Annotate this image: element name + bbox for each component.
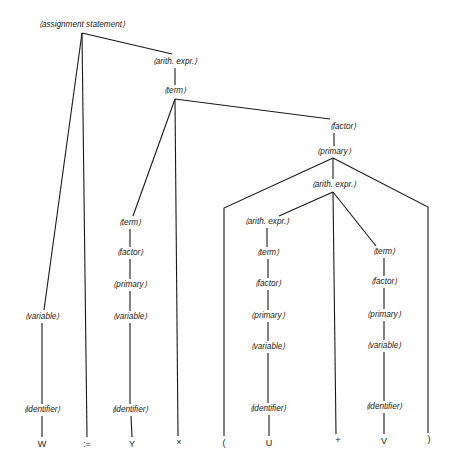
- node-term2: ⟨term⟩: [118, 218, 142, 228]
- node-primary4: ⟨primary⟩: [366, 310, 401, 320]
- terminal-rparen: ): [428, 434, 431, 444]
- node-variable4: ⟨variable⟩: [366, 341, 403, 351]
- terminal-Y: Y: [129, 439, 135, 449]
- node-primary1: ⟨primary⟩: [316, 147, 351, 157]
- node-term1: ⟨term⟩: [163, 86, 187, 96]
- node-term4: ⟨term⟩: [372, 247, 396, 257]
- node-factor4: ⟨factor⟩: [370, 277, 398, 287]
- edge-ident2-to-t_Y: [131, 416, 132, 437]
- node-factor1: ⟨factor⟩: [329, 122, 357, 132]
- terminal-times: ×: [176, 437, 181, 447]
- node-term3: ⟨term⟩: [256, 248, 280, 258]
- edge-term1-to-term2: [133, 99, 175, 216]
- edge-ae2-to-term4: [333, 192, 376, 246]
- terminal-V: V: [381, 436, 387, 446]
- edge-term1-to-factor1: [175, 99, 330, 119]
- edge-ae2-to-t_plus: [333, 192, 336, 434]
- node-ident2: ⟨identifier⟩: [111, 405, 150, 415]
- edge-assign-to-ae1: [82, 33, 172, 54]
- parse-tree-diagram: ⟨assignment statement⟩⟨arith. expr.⟩⟨ter…: [0, 0, 451, 465]
- edge-ae2-to-ae3: [279, 192, 333, 216]
- node-ae1: ⟨arith. expr.⟩: [152, 57, 198, 67]
- node-variable1: ⟨variable⟩: [24, 312, 61, 322]
- node-variable2: ⟨variable⟩: [112, 312, 149, 322]
- terminal-W: W: [38, 439, 47, 449]
- terminal-assign: :=: [83, 439, 91, 449]
- node-factor3: ⟨factor⟩: [254, 279, 282, 289]
- node-factor2: ⟨factor⟩: [116, 248, 144, 258]
- node-primary3: ⟨primary⟩: [250, 311, 285, 321]
- node-assign: ⟨assignment statement⟩: [38, 20, 126, 30]
- terminal-lparen: (: [223, 438, 226, 448]
- node-ident3: ⟨identifier⟩: [249, 404, 288, 414]
- edge-assign-to-t_assign: [82, 33, 87, 437]
- edge-assign-to-variable1: [44, 33, 82, 310]
- node-ident4: ⟨identifier⟩: [365, 402, 404, 412]
- node-ae3: ⟨arith. expr.⟩: [244, 217, 290, 227]
- terminal-U: U: [266, 438, 273, 448]
- node-primary2: ⟨primary⟩: [112, 280, 147, 290]
- terminal-plus: +: [335, 435, 340, 445]
- node-ident1: ⟨identifier⟩: [23, 405, 62, 415]
- edge-primary1-to-t_rparen: [333, 158, 428, 433]
- tree-edges: [0, 0, 451, 465]
- node-variable3: ⟨variable⟩: [250, 342, 287, 352]
- edge-term1-to-t_times: [175, 99, 178, 436]
- node-ae2: ⟨arith. expr.⟩: [311, 180, 357, 190]
